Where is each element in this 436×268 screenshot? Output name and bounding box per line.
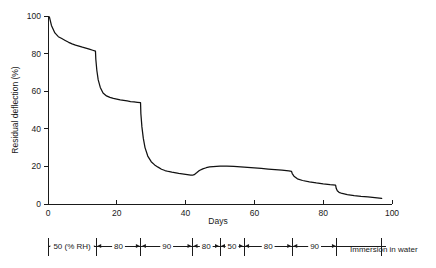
chart-figure: 020406080100 020406080100 50 (% RH)80908… bbox=[0, 0, 436, 268]
residual-deflection-line-chart: 020406080100 020406080100 50 (% RH)80908… bbox=[0, 0, 436, 268]
segment-label: 90 bbox=[162, 242, 171, 251]
y-tick-label: 60 bbox=[32, 86, 42, 96]
series-line bbox=[49, 17, 381, 198]
segment-label: 80 bbox=[264, 242, 273, 251]
segment-label: 50 bbox=[228, 242, 237, 251]
x-axis-title: Days bbox=[208, 216, 227, 226]
x-tick-label: 80 bbox=[318, 208, 328, 218]
segment-arrow-left bbox=[221, 244, 225, 248]
segment-arrow-right bbox=[187, 244, 191, 248]
segment-arrow-right bbox=[215, 244, 219, 248]
segment-arrow-right bbox=[136, 244, 140, 248]
y-axis-title: Residual deflection (%) bbox=[10, 66, 20, 154]
segment-arrow-right bbox=[332, 244, 336, 248]
y-tick-label: 100 bbox=[27, 11, 41, 21]
y-tick-label: 40 bbox=[32, 124, 42, 134]
chart-axes bbox=[48, 16, 392, 204]
immersion-in-water-label: Immersion in water bbox=[350, 245, 418, 254]
y-tick-label: 0 bbox=[36, 199, 41, 209]
segment-arrow-right bbox=[239, 244, 243, 248]
segment-label: 90 bbox=[310, 242, 319, 251]
x-tick-label: 100 bbox=[385, 208, 399, 218]
chart-tick-marks bbox=[44, 16, 392, 204]
y-axis-tick-labels: 020406080100 bbox=[27, 11, 41, 209]
condition-segment-labels: 50 (% RH)809080508090 bbox=[50, 240, 321, 251]
x-tick-label: 20 bbox=[112, 208, 122, 218]
segment-arrow-left bbox=[293, 244, 297, 248]
condition-annotation-bar bbox=[48, 238, 386, 256]
y-tick-label: 80 bbox=[32, 49, 42, 59]
y-tick-label: 20 bbox=[32, 161, 42, 171]
data-series-curve bbox=[49, 17, 381, 198]
x-tick-label: 0 bbox=[46, 208, 51, 218]
segment-arrow-left bbox=[193, 244, 197, 248]
segment-label: 50 (% RH) bbox=[53, 242, 91, 251]
segment-label: 80 bbox=[114, 242, 123, 251]
segment-arrow-right bbox=[287, 244, 291, 248]
x-tick-label: 40 bbox=[181, 208, 191, 218]
segment-arrow-left bbox=[97, 244, 101, 248]
x-tick-label: 60 bbox=[250, 208, 260, 218]
segment-arrow-left bbox=[142, 244, 146, 248]
segment-label: 80 bbox=[202, 242, 211, 251]
segment-arrow-left bbox=[245, 244, 249, 248]
